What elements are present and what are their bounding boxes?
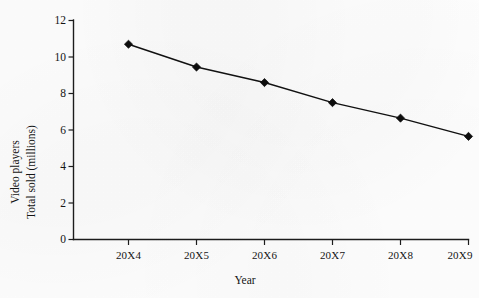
y-axis-title-line-2: Total sold (millions) [25,125,38,219]
series-markers [124,40,472,140]
data-point-20X4 [124,40,132,48]
y-axis-title-line-1: Video players [9,140,22,204]
x-tick-labels: 20X4 20X5 20X6 20X7 20X8 20X9 [116,249,473,261]
y-tick-label-12: 12 [55,14,67,26]
data-point-20X7 [328,99,336,107]
x-tick-label-20X8: 20X8 [388,249,414,261]
y-tick-label-4: 4 [60,160,66,172]
y-tick-label-10: 10 [55,51,67,63]
x-tick-label-20X4: 20X4 [116,249,142,261]
x-tick-label-20X6: 20X6 [252,249,278,261]
x-tick-label-20X5: 20X5 [184,249,210,261]
data-point-20X6 [260,78,268,86]
y-tick-label-6: 6 [60,124,66,136]
series-line-total-sold [129,44,469,136]
y-tick-label-2: 2 [60,197,66,209]
data-point-20X8 [396,114,404,122]
y-axis [69,20,74,240]
chart-page: Video players Total sold (millions) 0 2 … [0,0,479,298]
x-axis [74,240,469,246]
y-tick-labels: 0 2 4 6 8 10 12 [55,14,67,245]
data-point-20X9 [464,132,472,140]
y-tick-label-8: 8 [60,87,66,99]
x-tick-label-20X9: 20X9 [447,249,473,261]
x-tick-label-20X7: 20X7 [320,249,346,261]
data-point-20X5 [192,63,200,71]
y-axis-title: Video players Total sold (millions) [9,125,38,219]
y-tick-label-0: 0 [60,233,66,245]
x-axis-title: Year [234,274,255,286]
line-chart: Video players Total sold (millions) 0 2 … [0,0,479,298]
